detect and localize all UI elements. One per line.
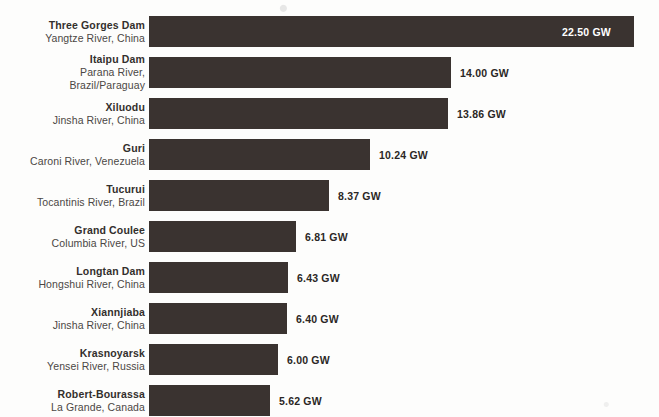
bar-value-label: 6.40 GW [296,313,339,325]
dam-river-location: Hongshui River, China [0,278,145,291]
bar-value-label: 13.86 GW [457,108,506,120]
bar-row: TucuruiTocantinis River, Brazil8.37 GW [0,180,659,211]
bar-row: XiannjiabaJinsha River, China6.40 GW [0,303,659,334]
bar-category-label: Longtan DamHongshui River, China [0,265,145,291]
dam-name: Xiannjiaba [0,306,145,319]
bar [149,221,296,252]
dam-river-location-line2: Brazil/Paraguay [0,79,145,92]
bar-category-label: Three Gorges DamYangtze River, China [0,19,145,45]
dam-river-location: Columbia River, US [0,237,145,250]
dam-river-location: Jinsha River, China [0,319,145,332]
dam-name: Xiluodu [0,101,145,114]
dam-river-location: Yangtze River, China [0,32,145,45]
bar-category-label: Itaipu DamParana River,Brazil/Paraguay [0,53,145,92]
bar-value-label: 22.50 GW [562,26,611,38]
bar-row: Itaipu DamParana River,Brazil/Paraguay14… [0,57,659,88]
dam-river-location: Parana River, [0,66,145,79]
bar-value-label: 6.43 GW [297,272,340,284]
hydropower-bar-chart: Three Gorges DamYangtze River, China22.5… [0,0,659,417]
bar [149,139,370,170]
bar-category-label: TucuruiTocantinis River, Brazil [0,183,145,209]
dam-name: Tucurui [0,183,145,196]
bar-category-label: Robert-BourassaLa Grande, Canada [0,388,145,414]
bar [149,57,451,88]
dam-name: Three Gorges Dam [0,19,145,32]
bar-row: KrasnoyarskYensei River, Russia6.00 GW [0,344,659,375]
dam-river-location: Tocantinis River, Brazil [0,196,145,209]
dam-name: Guri [0,142,145,155]
dam-name: Grand Coulee [0,224,145,237]
bar-category-label: GuriCaroni River, Venezuela [0,142,145,168]
dam-name: Krasnoyarsk [0,347,145,360]
dam-name: Robert-Bourassa [0,388,145,401]
bar-category-label: XiannjiabaJinsha River, China [0,306,145,332]
dam-river-location: Jinsha River, China [0,114,145,127]
bar-row: GuriCaroni River, Venezuela10.24 GW [0,139,659,170]
bar-category-label: XiluoduJinsha River, China [0,101,145,127]
bar [149,303,287,334]
bar-value-label: 6.81 GW [305,231,348,243]
bar-value-label: 8.37 GW [338,190,381,202]
bar-value-label: 10.24 GW [379,149,428,161]
bar-row: Longtan DamHongshui River, China6.43 GW [0,262,659,293]
bar [149,262,288,293]
bar [149,385,270,416]
bar-row: Three Gorges DamYangtze River, China22.5… [0,16,659,47]
dam-river-location: La Grande, Canada [0,401,145,414]
bar-category-label: KrasnoyarskYensei River, Russia [0,347,145,373]
bar-row: Robert-BourassaLa Grande, Canada5.62 GW [0,385,659,416]
dam-name: Itaipu Dam [0,53,145,66]
bar-value-label: 6.00 GW [287,354,330,366]
bar-row: Grand CouleeColumbia River, US6.81 GW [0,221,659,252]
bar [149,180,329,211]
bar-value-label: 5.62 GW [279,395,322,407]
bar-row: XiluoduJinsha River, China13.86 GW [0,98,659,129]
dam-name: Longtan Dam [0,265,145,278]
bar-value-label: 14.00 GW [460,67,509,79]
dam-river-location: Yensei River, Russia [0,360,145,373]
dam-river-location: Caroni River, Venezuela [0,155,145,168]
bar [149,98,448,129]
bar [149,344,278,375]
bar-category-label: Grand CouleeColumbia River, US [0,224,145,250]
